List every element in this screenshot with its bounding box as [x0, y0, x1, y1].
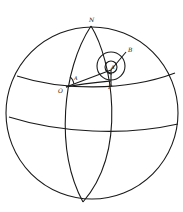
label-o: O — [58, 87, 63, 94]
label-angle-o: A — [73, 75, 78, 81]
parallel-lower — [9, 117, 178, 131]
sphere-outline — [6, 27, 178, 199]
label-b: B — [127, 46, 133, 53]
label-north: N — [88, 16, 95, 23]
meridian-left — [65, 26, 91, 202]
label-a: A — [110, 64, 115, 70]
sphere-diagram: N B A A O P — [0, 0, 183, 212]
